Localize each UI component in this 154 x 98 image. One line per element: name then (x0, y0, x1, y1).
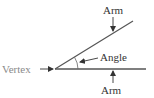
angle-diagram: Vertex Angle Arm Arm (0, 0, 154, 98)
angle-arc (75, 57, 78, 69)
diagram-svg: Vertex Angle Arm Arm (0, 0, 154, 98)
angle-arrow (80, 58, 98, 62)
angle-label: Angle (100, 51, 127, 63)
vertex-label: Vertex (2, 63, 31, 75)
top-arm-label: Arm (103, 4, 124, 16)
bottom-arm-label: Arm (101, 84, 122, 96)
